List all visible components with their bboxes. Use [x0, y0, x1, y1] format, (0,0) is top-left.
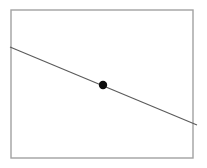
data-point-marker	[99, 81, 107, 89]
figure-canvas	[0, 0, 207, 168]
figure-container	[0, 0, 207, 168]
